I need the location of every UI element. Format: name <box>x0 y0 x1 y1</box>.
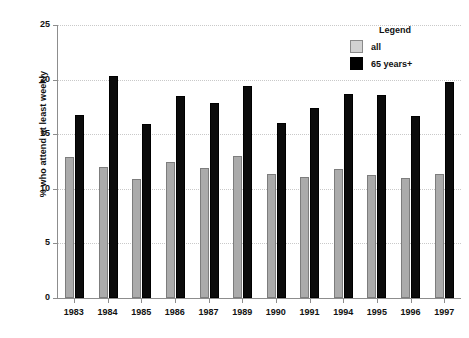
x-axis-label-1994: 1994 <box>326 307 360 323</box>
x-axis-tick <box>57 298 91 304</box>
y-axis-tick-label: 20 <box>22 74 50 84</box>
x-axis-tick <box>158 298 192 304</box>
bar-1990-65plus <box>277 123 286 298</box>
y-axis-tick-label: 15 <box>22 128 50 138</box>
x-axis-tick <box>326 298 360 304</box>
y-axis-tick-label: 10 <box>22 183 50 193</box>
legend-label-65plus: 65 years+ <box>371 59 412 69</box>
bar-1985-65plus <box>142 124 151 298</box>
x-axis-label-1990: 1990 <box>259 307 293 323</box>
x-axis-label-1997: 1997 <box>427 307 461 323</box>
bar-1997-65plus <box>445 82 454 298</box>
bar-1985-all <box>132 179 141 298</box>
x-axis-labels: 1983198419851986198719891990199119941995… <box>57 307 461 323</box>
bar-1997-all <box>435 174 444 298</box>
bar-1983-all <box>65 157 74 298</box>
legend-label-all: all <box>371 42 381 52</box>
legend: Legend all 65 years+ <box>350 25 446 74</box>
chart-container: % who attend at least weekly 0510152025 … <box>0 0 469 338</box>
bar-group <box>58 25 92 298</box>
bar-group <box>92 25 126 298</box>
x-axis-label-1989: 1989 <box>225 307 259 323</box>
legend-swatch-all <box>350 40 363 53</box>
bar-1996-all <box>401 178 410 298</box>
bar-1996-65plus <box>411 116 420 298</box>
bar-1989-all <box>233 156 242 298</box>
legend-title: Legend <box>350 25 446 35</box>
legend-swatch-65plus <box>350 57 363 70</box>
bar-group <box>259 25 293 298</box>
x-axis-label-1985: 1985 <box>124 307 158 323</box>
x-axis-tick <box>394 298 428 304</box>
x-axis-label-1984: 1984 <box>91 307 125 323</box>
bar-group <box>293 25 327 298</box>
bar-group <box>159 25 193 298</box>
x-axis-label-1995: 1995 <box>360 307 394 323</box>
y-axis-tick-label: 25 <box>22 19 50 29</box>
bar-1990-all <box>267 174 276 298</box>
bar-1987-65plus <box>210 103 219 298</box>
bar-1983-65plus <box>75 115 84 298</box>
legend-item-all: all <box>350 40 446 53</box>
bar-group <box>226 25 260 298</box>
bar-1987-all <box>200 168 209 298</box>
y-axis-tick-label: 5 <box>22 237 50 247</box>
bar-group <box>192 25 226 298</box>
x-axis-tick <box>91 298 125 304</box>
bar-1984-65plus <box>109 76 118 298</box>
bar-1984-all <box>99 167 108 298</box>
legend-item-65plus: 65 years+ <box>350 57 446 70</box>
x-axis-label-1987: 1987 <box>192 307 226 323</box>
bar-1989-65plus <box>243 86 252 298</box>
x-axis-ticks <box>57 298 461 304</box>
x-axis-tick <box>192 298 226 304</box>
bar-1991-65plus <box>310 108 319 298</box>
bar-1995-all <box>367 175 376 298</box>
x-axis-label-1983: 1983 <box>57 307 91 323</box>
x-axis-tick <box>360 298 394 304</box>
x-axis-label-1991: 1991 <box>293 307 327 323</box>
x-axis-label-1996: 1996 <box>394 307 428 323</box>
x-axis-tick <box>427 298 461 304</box>
bar-1991-all <box>300 177 309 298</box>
x-axis-tick <box>259 298 293 304</box>
bar-1994-all <box>334 169 343 298</box>
x-axis-tick <box>293 298 327 304</box>
y-axis-tick-label: 0 <box>22 292 50 302</box>
bar-1986-all <box>166 162 175 299</box>
x-axis-tick <box>225 298 259 304</box>
bar-group <box>125 25 159 298</box>
bar-1986-65plus <box>176 96 185 298</box>
x-axis-label-1986: 1986 <box>158 307 192 323</box>
bar-1994-65plus <box>344 94 353 298</box>
bar-1995-65plus <box>377 95 386 298</box>
x-axis-tick <box>124 298 158 304</box>
